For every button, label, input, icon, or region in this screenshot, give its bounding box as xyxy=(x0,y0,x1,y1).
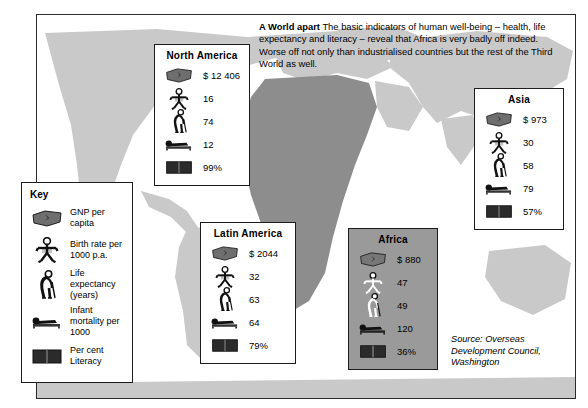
open-book-icon xyxy=(482,204,516,219)
stat-value-gnp: $ 880 xyxy=(390,254,421,265)
stat-value-literacy: 36% xyxy=(390,346,416,357)
key-item-birth-rate: Birth rate per 1000 p.a. xyxy=(30,236,126,264)
region-box-africa: Africa $ 880 47 49 120 xyxy=(348,228,438,370)
stat-row-infant-mortality: 64 xyxy=(208,311,288,334)
stat-row-life-expectancy: 49 xyxy=(356,294,430,317)
open-book-icon xyxy=(356,344,390,359)
banknote-icon xyxy=(482,112,516,127)
child-icon xyxy=(208,266,242,288)
key-label-gnp: GNP per capita xyxy=(64,207,126,229)
stat-value-gnp: $ 2044 xyxy=(242,248,278,259)
stat-value-infant-mortality: 79 xyxy=(516,183,534,194)
landmass-central-america xyxy=(141,191,199,233)
stat-row-infant-mortality: 79 xyxy=(482,177,556,200)
key-item-literacy: Per cent Literacy xyxy=(30,342,126,370)
banknote-icon xyxy=(356,252,390,267)
source-credit: Source: Overseas Development Council, Wa… xyxy=(451,334,576,369)
elderly-person-icon xyxy=(356,293,390,318)
headline-text: A World apart The basic indicators of hu… xyxy=(259,21,559,71)
stat-value-life-expectancy: 58 xyxy=(516,160,534,171)
elderly-person-icon xyxy=(162,109,196,134)
stat-row-literacy: 99% xyxy=(162,156,242,179)
region-box-asia: Asia $ 973 30 58 79 xyxy=(474,88,564,230)
stat-row-birth-rate: 30 xyxy=(482,131,556,154)
stat-value-birth-rate: 16 xyxy=(196,93,214,104)
elderly-person-icon xyxy=(482,153,516,178)
banknote-icon xyxy=(162,68,196,83)
region-box-north-america: North America $ 12 406 16 74 12 xyxy=(154,44,250,186)
stat-value-literacy: 79% xyxy=(242,340,268,351)
person-in-bed-icon xyxy=(208,316,242,329)
banknote-icon xyxy=(208,246,242,261)
stat-value-gnp: $ 12 406 xyxy=(196,70,240,81)
person-in-bed-icon xyxy=(162,138,196,151)
stat-value-infant-mortality: 64 xyxy=(242,317,260,328)
stat-row-birth-rate: 16 xyxy=(162,87,242,110)
stat-value-infant-mortality: 120 xyxy=(390,323,413,334)
stat-row-gnp: $ 2044 xyxy=(208,242,288,265)
banknote-icon xyxy=(30,210,64,227)
key-legend: Key GNP per capita Birth rate per 1000 p… xyxy=(21,182,133,383)
stat-row-life-expectancy: 58 xyxy=(482,154,556,177)
key-label-infant-mortality: Infant mortality per 1000 xyxy=(64,305,126,338)
stat-row-life-expectancy: 63 xyxy=(208,288,288,311)
key-title: Key xyxy=(30,189,126,200)
stat-row-literacy: 57% xyxy=(482,200,556,223)
person-in-bed-icon xyxy=(356,322,390,335)
stat-value-literacy: 57% xyxy=(516,206,542,217)
stat-value-birth-rate: 32 xyxy=(242,271,260,282)
person-in-bed-icon xyxy=(482,182,516,195)
stat-value-infant-mortality: 12 xyxy=(196,139,214,150)
region-title-north-america: North America xyxy=(162,50,242,61)
stat-value-literacy: 99% xyxy=(196,162,222,173)
key-label-life-expectancy: Life expectancy (years) xyxy=(64,268,126,301)
open-book-icon xyxy=(162,160,196,175)
stat-value-life-expectancy: 74 xyxy=(196,116,214,127)
stat-row-infant-mortality: 120 xyxy=(356,317,430,340)
open-book-icon xyxy=(208,338,242,353)
stat-value-life-expectancy: 63 xyxy=(242,294,260,305)
child-icon xyxy=(482,132,516,154)
stat-value-gnp: $ 973 xyxy=(516,114,547,125)
landmass-australia xyxy=(485,245,571,315)
stat-row-gnp: $ 880 xyxy=(356,248,430,271)
child-icon xyxy=(162,88,196,110)
elderly-person-icon xyxy=(30,270,64,300)
stat-row-literacy: 36% xyxy=(356,340,430,363)
stat-row-life-expectancy: 74 xyxy=(162,110,242,133)
key-item-infant-mortality: Infant mortality per 1000 xyxy=(30,305,126,338)
stat-row-gnp: $ 12 406 xyxy=(162,64,242,87)
headline-title: A World apart xyxy=(259,21,320,32)
person-in-bed-icon xyxy=(30,315,64,329)
key-item-life-expectancy: Life expectancy (years) xyxy=(30,268,126,301)
stat-value-birth-rate: 47 xyxy=(390,277,408,288)
region-title-latin-america: Latin America xyxy=(208,228,288,239)
child-icon xyxy=(30,237,64,263)
child-icon xyxy=(356,272,390,294)
stat-value-birth-rate: 30 xyxy=(516,137,534,148)
region-title-africa: Africa xyxy=(356,234,430,245)
elderly-person-icon xyxy=(208,287,242,312)
key-label-literacy: Per cent Literacy xyxy=(64,345,126,367)
stat-row-literacy: 79% xyxy=(208,334,288,357)
stat-value-life-expectancy: 49 xyxy=(390,300,408,311)
infographic-poster: A World apart The basic indicators of hu… xyxy=(0,0,588,408)
region-box-latin-america: Latin America $ 2044 32 63 64 xyxy=(200,222,296,364)
stat-row-gnp: $ 973 xyxy=(482,108,556,131)
open-book-icon xyxy=(30,348,64,365)
region-title-asia: Asia xyxy=(482,94,556,105)
stat-row-birth-rate: 32 xyxy=(208,265,288,288)
key-label-birth-rate: Birth rate per 1000 p.a. xyxy=(64,239,126,261)
key-item-gnp: GNP per capita xyxy=(30,204,126,232)
stat-row-birth-rate: 47 xyxy=(356,271,430,294)
stat-row-infant-mortality: 12 xyxy=(162,133,242,156)
